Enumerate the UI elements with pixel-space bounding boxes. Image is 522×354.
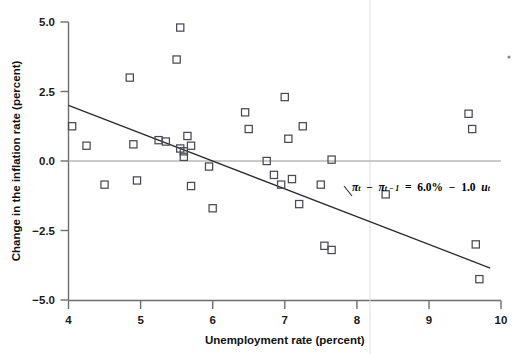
data-point-marker [130, 141, 137, 148]
data-point-marker [173, 56, 180, 63]
y-axis-tick-labels: 5.0 2.5 0.0 −2.5 −5.0 [32, 16, 55, 306]
data-point-marker [469, 125, 476, 132]
x-tick-label-4: 4 [65, 314, 72, 326]
data-point-marker [270, 171, 277, 178]
x-tick-label-10: 10 [495, 314, 508, 326]
eqn-minus-1: − [363, 181, 375, 193]
y-tick-label-neg5: −5.0 [32, 294, 55, 306]
x-axis-tick-labels: 4 5 6 7 8 9 10 [65, 314, 507, 326]
x-tick-label-9: 9 [426, 314, 432, 326]
data-point-marker [317, 181, 324, 188]
x-axis-title: Unemployment rate (percent) [205, 334, 365, 346]
data-point-marker [83, 142, 90, 149]
y-tick-label-0: 0.0 [39, 155, 55, 167]
data-point-marker [285, 135, 292, 142]
y-axis-title: Change in the inflation rate (percent) [10, 61, 22, 262]
data-point-marker [126, 74, 133, 81]
data-point-marker [242, 109, 249, 116]
eqn-u-t: u [478, 181, 487, 193]
data-point-marker [288, 175, 295, 182]
data-point-marker [245, 125, 252, 132]
eqn-intercept: 6.0% [417, 181, 443, 193]
data-point-marker [205, 163, 212, 170]
x-tick-label-8: 8 [354, 314, 361, 326]
eqn-slope: 1.0 [461, 181, 475, 193]
x-tick-label-6: 6 [209, 314, 215, 326]
y-tick-label-neg2.5: −2.5 [32, 225, 55, 237]
data-point-marker [69, 123, 76, 130]
data-point-marker [299, 123, 306, 130]
x-tick-label-5: 5 [137, 314, 144, 326]
data-point-marker [328, 246, 335, 253]
chart-canvas: 5.0 2.5 0.0 −2.5 −5.0 4 5 6 7 8 9 10 U [0, 0, 522, 354]
annotation-leader-line [344, 186, 352, 196]
scatter-plot-figure: 5.0 2.5 0.0 −2.5 −5.0 4 5 6 7 8 9 10 U [0, 0, 522, 354]
data-point-marker [187, 182, 194, 189]
data-point-marker [476, 276, 483, 283]
data-point-marker [281, 93, 288, 100]
data-point-marker [472, 241, 479, 248]
y-tick-label-2.5: 2.5 [39, 86, 56, 98]
x-tick-label-7: 7 [282, 314, 288, 326]
data-point-marker [209, 205, 216, 212]
data-point-marker [101, 181, 108, 188]
data-point-marker [465, 110, 472, 117]
y-tick-label-5: 5.0 [39, 16, 55, 28]
data-point-marker [184, 132, 191, 139]
data-point-marker [177, 24, 184, 31]
eqn-equals: = [402, 181, 414, 193]
data-point-marker [133, 177, 140, 184]
data-point-marker [187, 142, 194, 149]
edge-speck [507, 55, 510, 58]
data-point-marker [321, 242, 328, 249]
data-point-group [69, 24, 483, 283]
eqn-minus-2: − [446, 181, 458, 193]
x-axis-ticks [69, 301, 502, 310]
regression-equation-annotation: πt − πt − 1 = 6.0% − 1.0 ut [352, 181, 490, 193]
data-point-marker [328, 156, 335, 163]
y-axis-ticks [61, 22, 69, 300]
data-point-marker [296, 200, 303, 207]
